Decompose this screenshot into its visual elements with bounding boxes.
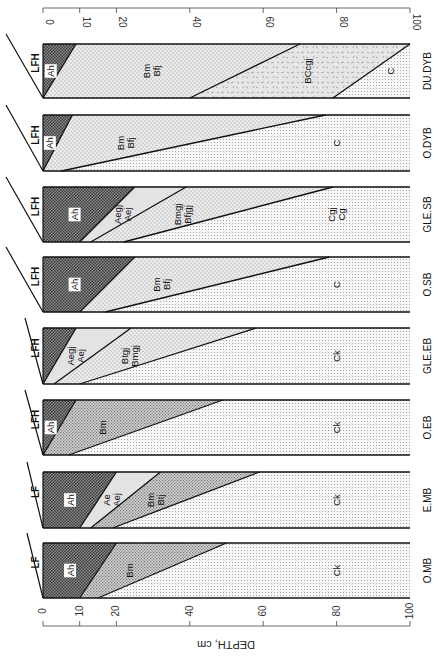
horizon-label: C (331, 139, 342, 146)
horizon-label: C (331, 281, 342, 288)
horizon-label: Ah (44, 137, 55, 149)
horizon-label: Ah (45, 422, 56, 434)
axis-tick-label: 100 (404, 602, 415, 619)
litter-label: LFH (30, 267, 41, 286)
soil-profile-du-dyb: LFHAhBmBfjBCcgjCDU.DYB (6, 34, 433, 98)
axis-tick-label: 0 (44, 19, 55, 25)
horizon-label: Bfj (161, 279, 172, 290)
profiles-group: LFHAhBmBfjBCcgjCDU.DYBLFHAhBmBfjCO.DYBLF… (6, 34, 433, 598)
soil-profile-diagram: 01020406080100 01020406080100 LFHAhBmBfj… (0, 0, 446, 660)
soil-profile-gle-sb: LFHAhAegjAejBmgjBfjgjCgjCgGLE.SB (6, 177, 433, 242)
horizon-label: Bfj (151, 65, 162, 76)
litter-label: LFH (30, 197, 41, 216)
axis-tick-label: 60 (264, 16, 275, 28)
horizon-label: Ah (45, 65, 56, 77)
depth-axis-top: 01020406080100 (43, 8, 422, 31)
horizon-label: Bmgj (129, 345, 140, 367)
profile-name: GLE.EB (422, 338, 433, 374)
horizon-label: Cg (336, 208, 347, 220)
horizon-label: BCcgj (302, 58, 313, 83)
axis-tick-label: 40 (191, 16, 202, 28)
horizon-label: Ck (331, 494, 342, 506)
axis-tick-label: 40 (184, 605, 195, 617)
soil-profile-gle-eb: LFHAegjAejBtgjBmgjCkGLE.EB (25, 318, 433, 384)
axis-title: DEPTH, cm (197, 639, 255, 651)
horizon-label: Bfjgj (182, 205, 193, 223)
horizon-label: C (385, 67, 396, 74)
profile-name: DU.DYB (422, 52, 433, 90)
axis-tick-label: 80 (338, 16, 349, 28)
soil-profile-o-mb: LFAhBmCkO.MB (27, 533, 433, 598)
soil-profile-o-sb: LFHAhBmBfjCO.SB (6, 247, 433, 312)
profile-name: O.MB (422, 557, 433, 583)
horizon-label: Aej (111, 493, 122, 507)
profile-name: E.MB (422, 487, 433, 512)
horizon-label: Ah (65, 565, 76, 577)
axis-tick-label: 100 (411, 14, 422, 31)
litter-label: LF (30, 556, 41, 568)
axis-tick-label: 10 (74, 605, 85, 617)
horizon-label: Bm (97, 420, 108, 434)
soil-profile-o-dyb: LFHAhBmBfjCO.DYB (6, 105, 433, 171)
horizon-label: Ah (69, 209, 80, 221)
horizon-label: Ah (69, 279, 80, 291)
soil-profile-e-mb: LFAhAeAejBmBtjCkE.MB (27, 462, 433, 528)
horizon-label: Aej (75, 349, 86, 363)
litter-label: LF (30, 486, 41, 498)
axis-tick-label: 20 (117, 16, 128, 28)
depth-axis-bottom: 01020406080100 (37, 602, 415, 626)
horizon-label: Ck (331, 421, 342, 433)
soil-profile-o-eb: LFHAhBmCkO.EB (25, 390, 433, 455)
profile-name: O.DYB (422, 127, 433, 158)
horizon-label: Bm (124, 563, 135, 577)
horizon-label: Ah (65, 494, 76, 506)
axis-tick-label: 80 (331, 605, 342, 617)
horizon-label: Ck (331, 564, 342, 576)
profile-name: GLE.SB (422, 196, 433, 232)
litter-label: LFH (30, 410, 41, 429)
profile-name: O.EB (422, 415, 433, 439)
axis-tick-label: 60 (257, 605, 268, 617)
litter-label: LFH (30, 53, 41, 72)
horizon-label: Bfj (125, 137, 136, 148)
axis-tick-label: 20 (110, 605, 121, 617)
litter-label: LFH (30, 338, 41, 357)
axis-tick-label: 10 (81, 16, 92, 28)
litter-label: LFH (30, 125, 41, 144)
profile-name: O.SB (422, 272, 433, 296)
horizon-label: Btj (155, 494, 166, 505)
axis-tick-label: 0 (37, 608, 48, 614)
horizon-label: Aej (122, 208, 133, 222)
horizon-label: Ck (331, 350, 342, 362)
